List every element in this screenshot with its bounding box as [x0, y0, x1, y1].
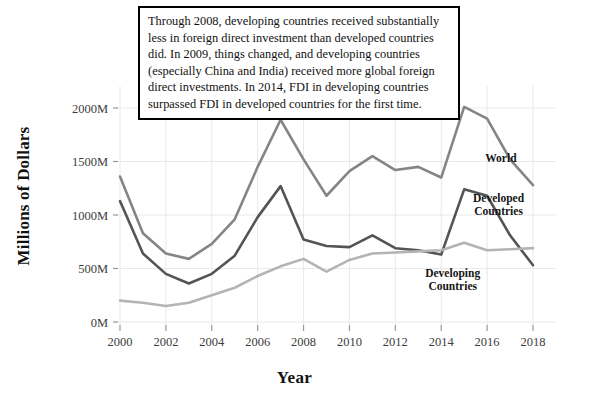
x-tick-label: 2000	[108, 335, 133, 349]
series-line-world	[120, 107, 533, 259]
annotation-textbox: Through 2008, developing countries recei…	[138, 6, 460, 120]
x-tick-label: 2018	[521, 335, 546, 349]
y-tick-label: 1500M	[72, 155, 108, 169]
series-label-developing-countries: DevelopingCountries	[425, 267, 480, 292]
x-tick-label: 2006	[245, 335, 270, 349]
x-tick-label: 2012	[383, 335, 408, 349]
y-tick-label: 2000M	[72, 102, 108, 116]
y-tick-labels: 0M500M1000M1500M2000M	[72, 102, 108, 330]
y-tick-label: 0M	[91, 316, 108, 330]
fdi-line-chart-figure: Millions of Dollars Year Through 2008, d…	[0, 0, 589, 402]
x-tick-labels: 2000200220042006200820102012201420162018	[108, 335, 546, 349]
series-label-developed-countries: DevelopedCountries	[473, 192, 525, 217]
x-tick-label: 2008	[291, 335, 316, 349]
y-tick-label: 1000M	[72, 209, 108, 223]
x-tick-label: 2010	[337, 335, 362, 349]
x-tick-label: 2004	[199, 335, 225, 349]
x-tick-label: 2014	[429, 335, 455, 349]
y-tick-label: 500M	[78, 262, 108, 276]
x-tick-label: 2016	[475, 335, 500, 349]
x-tick-label: 2002	[153, 335, 178, 349]
axis-ticks	[113, 108, 533, 331]
series-labels: WorldDevelopedCountriesDevelopingCountri…	[425, 152, 525, 293]
series-label-world: World	[485, 152, 517, 164]
